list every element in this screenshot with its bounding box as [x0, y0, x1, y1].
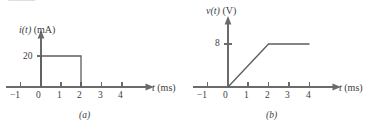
x-axis-title-a: t (ms)	[152, 82, 176, 93]
x-tick-label-minus1-a: −1	[10, 90, 20, 100]
y-axis-unit-a: (mA)	[34, 24, 56, 35]
x-tick-label-2-a: 2	[77, 90, 82, 100]
x-tick-marks-b	[208, 82, 310, 87]
y-axis-var-b: v(t)	[206, 5, 220, 16]
y-axis-arrow-b	[225, 16, 232, 25]
x-axis-unit-a: (ms)	[157, 82, 175, 93]
x-tick-label-2-b: 2	[265, 90, 270, 100]
x-tick-label-4-b: 4	[306, 90, 311, 100]
x-tick-label-3-a: 3	[98, 90, 103, 100]
x-tick-label-3-b: 3	[285, 90, 290, 100]
plot-area-b	[189, 0, 378, 131]
y-axis-var-a: i(t)	[19, 24, 31, 35]
data-curve-b	[228, 44, 310, 87]
plot-svg-a	[0, 0, 189, 131]
figure-root: ———	[0, 0, 378, 131]
x-axis-unit-b: (ms)	[344, 82, 362, 93]
y-axis-unit-b: (V)	[222, 5, 236, 16]
x-tick-label-0-a: 0	[36, 90, 41, 100]
x-tick-label-1-b: 1	[244, 90, 249, 100]
plot-area-a	[0, 0, 189, 131]
panel-caption-b: (b)	[266, 110, 277, 120]
chart-panel-b: v(t) (V) 8 −1 0 1 2 3 4 t (ms) (b)	[189, 0, 378, 131]
chart-panel-a: i(t) (mA) 20 −1 0 1 2 3 4 t (ms) (a)	[0, 0, 189, 131]
y-axis-title-b: v(t) (V)	[206, 5, 236, 16]
x-tick-label-0-b: 0	[223, 90, 228, 100]
x-tick-marks-a	[21, 82, 123, 87]
y-value-label-20-a: 20	[23, 51, 33, 61]
y-axis-title-a: i(t) (mA)	[19, 24, 55, 35]
y-value-label-8-b: 8	[215, 38, 220, 48]
x-tick-label-4-a: 4	[118, 90, 123, 100]
x-tick-label-1-a: 1	[57, 90, 62, 100]
x-axis-title-b: t (ms)	[339, 82, 363, 93]
x-tick-label-minus1-b: −1	[197, 90, 207, 100]
plot-svg-b	[189, 0, 378, 131]
panel-caption-a: (a)	[79, 110, 90, 120]
